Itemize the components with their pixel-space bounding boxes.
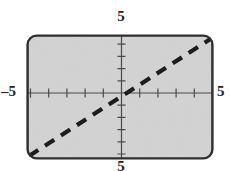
viewing-window [26, 34, 214, 160]
y-axis-max-label: 5 [0, 9, 230, 24]
x-axis-max-label: 5 [217, 84, 225, 99]
plot-area-svg [26, 34, 214, 160]
y-axis-min-label: 5 [0, 159, 230, 171]
graph-figure: 5 –5 5 5 [0, 0, 230, 171]
x-axis-min-label: –5 [1, 84, 16, 99]
